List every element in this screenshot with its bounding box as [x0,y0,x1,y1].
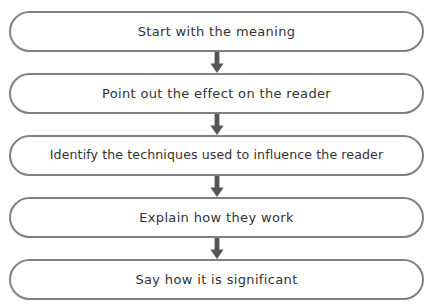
arrow-down-icon [210,176,224,197]
flowchart-step-1: Start with the meaning [9,11,424,52]
flowchart-step-4-label: Explain how they work [133,211,300,224]
flowchart-step-5-label: Say how it is significant [129,273,303,286]
flowchart-connector-2 [9,114,424,135]
flowchart-step-2-label: Point out the effect on the reader [96,87,337,100]
flowchart-connector-3 [9,176,424,197]
arrow-down-icon [210,52,224,73]
flowchart-diagram: Start with the meaning Point out the eff… [0,0,433,306]
flowchart-connector-4 [9,238,424,259]
flowchart-step-1-label: Start with the meaning [132,25,302,38]
flowchart-step-2: Point out the effect on the reader [9,73,424,114]
flowchart-step-5: Say how it is significant [9,259,424,300]
arrow-down-icon [210,238,224,259]
flowchart-connector-1 [9,52,424,73]
flowchart-step-4: Explain how they work [9,197,424,238]
arrow-down-icon [210,114,224,135]
flowchart-step-3: Identify the techniques used to influenc… [9,135,424,176]
flowchart-step-3-label: Identify the techniques used to influenc… [48,149,385,162]
